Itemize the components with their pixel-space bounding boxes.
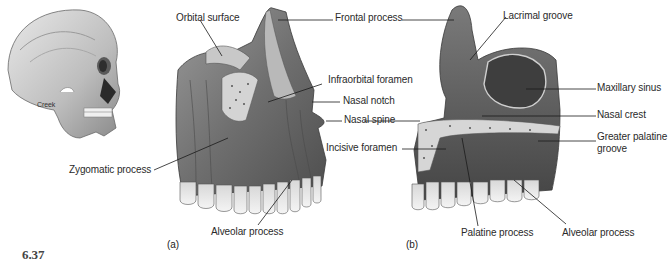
skull-thumbnail (8, 10, 120, 138)
label-lacrimal-groove: Lacrimal groove (503, 10, 573, 22)
figure-number: 6.37 (22, 249, 44, 261)
label-orbital-surface: Orbital surface (176, 12, 240, 24)
label-nasal-spine: Nasal spine (344, 114, 395, 126)
label-infraorbital-foramen: Infraorbital foramen (328, 74, 413, 86)
illustrator-credit: Creek (37, 99, 55, 111)
maxilla-medial-view (412, 6, 560, 210)
label-palatine-process: Palatine process (461, 227, 533, 239)
label-nasal-notch: Nasal notch (343, 95, 395, 107)
label-frontal-process: Frontal process (335, 12, 402, 24)
label-incisive-foramen: Incisive foramen (326, 142, 397, 154)
maxilla-lateral-view (176, 8, 326, 214)
label-alveolar-process-a: Alveolar process (211, 226, 283, 238)
label-maxillary-sinus: Maxillary sinus (597, 82, 661, 94)
label-zygomatic-process: Zygomatic process (69, 164, 151, 176)
label-alveolar-process-b: Alveolar process (562, 227, 634, 239)
panel-label-b: (b) (406, 239, 418, 251)
label-greater-palatine-groove: Greater palatine groove (597, 131, 669, 155)
panel-label-a: (a) (167, 239, 179, 251)
label-nasal-crest: Nasal crest (597, 109, 646, 121)
